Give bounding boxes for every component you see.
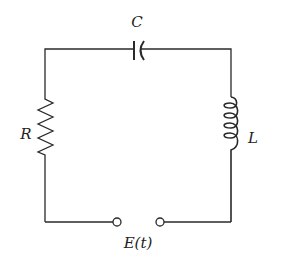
resistor-label: R xyxy=(19,125,31,143)
circuit-svg: C R L E(t) xyxy=(0,0,281,266)
source-terminal-right xyxy=(156,218,164,226)
source-label: E(t) xyxy=(123,234,153,252)
inductor-label: L xyxy=(247,129,258,147)
resistor-symbol xyxy=(38,97,53,222)
capacitor-label: C xyxy=(131,13,143,31)
capacitor-symbol xyxy=(134,41,144,60)
rlc-circuit-diagram: C R L E(t) xyxy=(0,0,281,266)
top-wire xyxy=(45,49,231,97)
inductor-symbol xyxy=(224,97,238,222)
source-terminal-left xyxy=(113,218,121,226)
